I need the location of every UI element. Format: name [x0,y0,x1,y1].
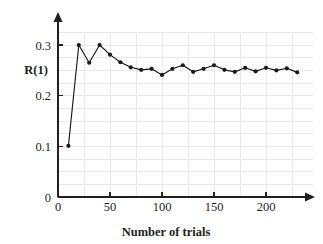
data-point [285,66,289,70]
y-axis-arrow-icon [54,12,63,22]
x-axis-title: Number of trials [122,225,211,239]
data-point [222,68,226,72]
data-point [170,67,174,71]
x-tick-label: 0 [55,200,61,214]
data-point [98,43,102,47]
data-point [212,63,216,67]
data-point [202,67,206,71]
data-point [243,66,247,70]
data-point [129,65,133,69]
data-point [181,63,185,67]
data-point [264,66,268,70]
tick-labels: 05010015020000.10.20.3 [35,39,275,215]
y-tick-label: 0.2 [35,89,51,103]
data-point [118,60,122,64]
y-tick-label: 0 [45,191,51,205]
axes [54,12,316,202]
data-point [160,73,164,77]
data-point [87,61,91,65]
x-tick-label: 200 [257,200,276,214]
data-point [139,68,143,72]
gridlines [58,32,313,197]
data-point [233,70,237,74]
data-point [77,43,81,47]
chart-figure: 05010015020000.10.20.3 R(1) Number of tr… [0,0,323,244]
y-axis-title: R(1) [24,63,48,77]
x-axis-arrow-icon [305,193,315,202]
x-tick-label: 150 [205,200,224,214]
x-tick-label: 50 [104,200,117,214]
data-point [274,68,278,72]
y-tick-label: 0.3 [35,39,51,53]
line-chart: 05010015020000.10.20.3 R(1) Number of tr… [0,0,323,244]
y-tick-label: 0.1 [35,140,51,154]
data-point [295,70,299,74]
data-point [191,70,195,74]
data-point [254,69,258,73]
data-point [66,144,70,148]
data-point [150,67,154,71]
data-point [108,53,112,57]
x-tick-label: 100 [153,200,172,214]
